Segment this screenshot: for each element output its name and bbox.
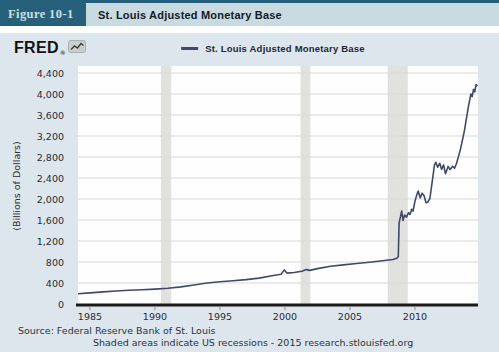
recession-band	[388, 66, 408, 304]
y-tick-label: 800	[46, 257, 64, 268]
y-tick-label: 1,200	[37, 236, 64, 247]
plot-area	[78, 66, 478, 304]
x-tick-label: 1985	[78, 311, 102, 322]
y-tick-label: 2,400	[37, 173, 64, 184]
source-attribution: Source: Federal Reserve Bank of St. Loui…	[18, 325, 216, 336]
y-tick-label: 3,600	[37, 110, 64, 121]
fred-logo-text: FRED	[14, 40, 59, 56]
recession-band	[301, 66, 311, 304]
figure-panel: Figure 10-1 St. Louis Adjusted Monetary …	[0, 0, 499, 358]
x-tick-label: 2000	[273, 311, 297, 322]
legend-series-label: St. Louis Adjusted Monetary Base	[205, 43, 365, 54]
y-tick-label: 1,600	[37, 215, 64, 226]
y-tick-label: 0	[58, 299, 64, 310]
y-tick-label: 4,000	[37, 89, 64, 100]
x-tick-label: 1990	[143, 311, 167, 322]
x-axis-line	[76, 304, 478, 307]
y-tick-label: 2,800	[37, 152, 64, 163]
y-tick-label: 4,400	[37, 68, 64, 79]
x-tick-label: 2010	[403, 311, 427, 322]
fred-logo: FRED ®	[14, 38, 86, 57]
recession-band	[161, 66, 171, 304]
recession-note: Shaded areas indicate US recessions - 20…	[93, 337, 413, 348]
x-tick-label: 1995	[208, 311, 232, 322]
x-tick-label: 2005	[338, 311, 362, 322]
legend-line-swatch	[181, 47, 198, 50]
y-tick-label: 2,000	[37, 194, 64, 205]
y-axis-title: (Billions of Dollars)	[11, 141, 22, 231]
registered-trademark-icon: ®	[60, 49, 66, 56]
line-chart-icon	[68, 38, 86, 57]
y-tick-label: 3,200	[37, 131, 64, 142]
y-tick-label: 400	[46, 278, 64, 289]
chart-legend: St. Louis Adjusted Monetary Base	[181, 43, 365, 54]
